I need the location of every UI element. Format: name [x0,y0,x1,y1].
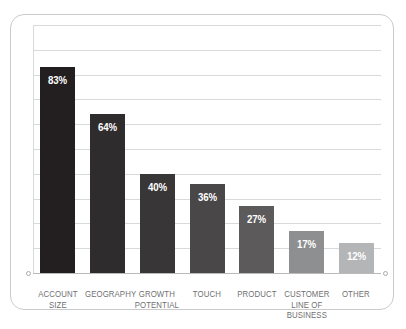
bar-value-label: 40% [142,181,173,193]
category-label-line: BUSINESS [284,310,330,321]
gridline [33,50,381,51]
gridline [33,124,381,125]
x-axis-category-label: TOUCH [184,289,230,300]
bar-value-label: 64% [92,121,123,133]
axis-endpoint-right-marker [383,271,388,276]
category-label-line: GROWTH [134,289,180,300]
category-label-line: GEOGRAPHY [85,289,131,300]
bar: 40% [140,174,175,273]
x-axis-category-label: PRODUCT [234,289,280,300]
category-label-line: PRODUCT [234,289,280,300]
category-label-line: POTENTIAL [134,300,180,311]
category-label-line: LINE OF [284,300,330,311]
bar: 36% [190,184,225,273]
bar-value-label: 17% [291,238,322,250]
plot-area: 83%64%40%36%27%17%12% ACCOUNTSIZEGEOGRAP… [33,25,381,273]
chart-card: 83%64%40%36%27%17%12% ACCOUNTSIZEGEOGRAP… [10,14,394,310]
x-axis-category-label: GROWTHPOTENTIAL [134,289,180,310]
gridline [33,174,381,175]
bar-value-label: 12% [341,250,372,262]
bar-value-label: 36% [192,191,223,203]
category-label-line: OTHER [333,289,379,300]
gridline [33,99,381,100]
bar-value-label: 83% [42,74,73,86]
x-axis-category-label: GEOGRAPHY [85,289,131,300]
bar-value-label: 27% [241,213,272,225]
bar: 12% [339,243,374,273]
gridline [33,25,381,26]
gridline [33,149,381,150]
x-axis-category-label: OTHER [333,289,379,300]
bar: 27% [239,206,274,273]
bar: 83% [40,67,75,273]
y-axis-line [33,25,34,273]
category-label-line: ACCOUNT [35,289,81,300]
x-axis-category-label: ACCOUNTSIZE [35,289,81,310]
bar: 64% [90,114,125,273]
gridline [33,75,381,76]
x-axis-category-label: CUSTOMERLINE OFBUSINESS [284,289,330,321]
category-label-line: TOUCH [184,289,230,300]
axis-baseline [33,273,381,274]
category-label-line: SIZE [35,300,81,311]
category-label-line: CUSTOMER [284,289,330,300]
bar: 17% [289,231,324,273]
axis-endpoint-left-marker [26,271,31,276]
